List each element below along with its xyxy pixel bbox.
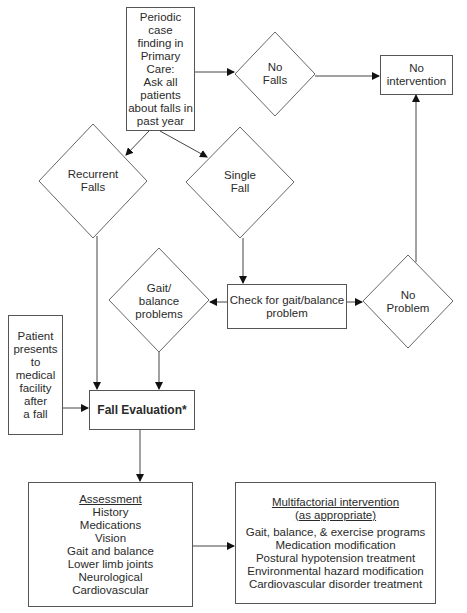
node-text: problems [135,308,182,321]
node-text: medical [16,369,56,382]
multifactorial-item: Environmental hazard modification [247,565,423,578]
node-text: No [401,289,416,302]
gait-balance-problems-label: Gait/ balance problems [124,280,194,322]
node-text: Fall [231,182,250,195]
edge-periodic-recurrent [126,131,149,155]
assessment-item: Cardiovascular [72,584,149,597]
node-text: No [409,62,424,75]
assessment-item: Vision [95,532,126,545]
no-intervention-box: No intervention [380,55,453,95]
single-fall-label: Single Fall [200,168,280,196]
recurrent-falls-label: Recurrent Falls [53,167,133,195]
node-text: No [268,61,283,74]
node-text: Falls [263,74,287,87]
node-text: Patient [18,330,54,343]
check-gait-balance-box: Check for gait/balance problem [227,284,347,329]
periodic-case-finding-box: Periodic case finding in Primary Care: A… [126,7,195,131]
node-text: Recurrent [68,168,119,181]
multifactorial-heading: Multifactorial intervention [272,496,399,509]
multifactorial-item: Gait, balance, & exercise programs [246,526,426,539]
node-text: after [24,395,47,408]
node-text: problem [266,307,308,320]
node-text: facility [20,382,52,395]
node-text: Problem [387,302,430,315]
assessment-heading: Assessment [79,493,142,506]
assessment-item: Neurological [79,571,143,584]
node-text: Care: [146,63,174,76]
multifactorial-intervention-box: Multifactorial intervention (as appropri… [235,482,436,604]
fall-evaluation-box: Fall Evaluation* [89,390,195,430]
assessment-item: Medications [80,519,141,532]
node-text: a fall [23,408,47,421]
node-text: patients [140,89,180,102]
assessment-item: History [93,506,129,519]
multifactorial-item: Medication modification [275,539,395,552]
multifactorial-subheading: (as appropriate) [295,509,376,522]
multifactorial-item: Postural hypotension treatment [256,552,415,565]
edge-periodic-single [160,131,207,157]
node-text: Gait/ [147,282,171,295]
node-text: to [31,356,41,369]
node-text: balance [139,295,179,308]
patient-presents-box: Patient presents to medical facility aft… [8,315,63,435]
node-text: Falls [81,181,105,194]
no-falls-label: No Falls [245,60,305,88]
no-problem-label: No Problem [378,288,438,316]
node-text: Check for gait/balance [230,294,344,307]
assessment-item: Lower limb joints [68,558,154,571]
node-text: about falls in [128,102,193,115]
assessment-item: Gait and balance [67,545,154,558]
fall-evaluation-label: Fall Evaluation* [97,404,186,417]
multifactorial-item: Cardiovascular disorder treatment [249,578,422,591]
node-text: Single [224,169,256,182]
node-text: Ask all [144,76,178,89]
node-text: past year [137,115,184,128]
node-text: presents [13,343,57,356]
node-text: Primary [141,50,181,63]
assessment-box: Assessment History Medications Vision Ga… [28,482,193,607]
node-text: intervention [387,75,446,88]
node-text: Periodic case [127,11,194,37]
node-text: finding in [137,37,183,50]
